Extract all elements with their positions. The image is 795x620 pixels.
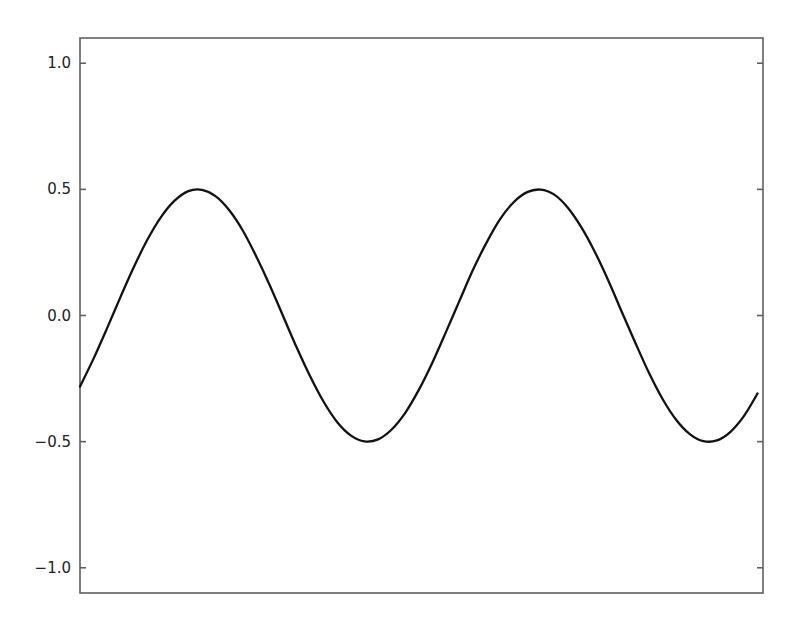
y-tick-label--0.5: −0.5 <box>0 432 71 452</box>
plot-canvas <box>0 0 795 620</box>
y-tick-label--1.0: −1.0 <box>0 558 71 578</box>
plot-frame <box>80 38 763 593</box>
y-tick-label-0.5: 0.5 <box>0 179 71 199</box>
figure: 1.0 0.5 0.0 −0.5 −1.0 <box>0 0 795 620</box>
y-tick-label-1.0: 1.0 <box>0 53 71 73</box>
sine-curve <box>80 189 758 441</box>
y-tick-label-0.0: 0.0 <box>0 306 71 326</box>
